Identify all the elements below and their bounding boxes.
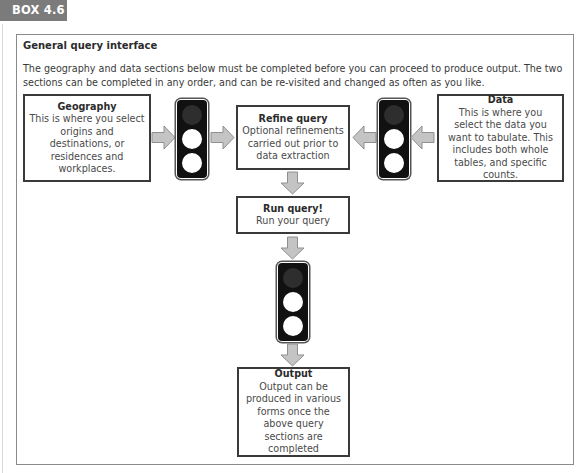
lamp-on-icon [283,316,303,336]
geography-node: Geography This is where you select origi… [23,94,151,182]
arrow-right-icon [151,125,176,150]
data-body: This is where you select the data you wa… [443,107,558,182]
run-body: Run your query [256,215,330,228]
data-title: Data [488,94,514,107]
geography-title: Geography [58,101,117,114]
arrow-down-icon [280,343,305,367]
box-label: BOX 4.6 [0,0,67,21]
lamp-on-icon [384,153,404,173]
lamp-off-icon [384,105,404,125]
output-node: Output Output can be produced in various… [237,367,350,457]
arrow-right-icon [210,125,235,150]
arrow-left-icon [352,125,377,150]
lamp-on-icon [182,153,202,173]
traffic-light-icon [177,100,207,178]
page-edge [2,24,3,473]
lamp-on-icon [182,129,202,149]
output-title: Output [275,368,313,381]
refine-title: Refine query [259,113,328,126]
lamp-off-icon [283,268,303,288]
panel-intro: The geography and data sections below mu… [23,62,563,90]
geography-body: This is where you select origins and des… [29,113,145,176]
run-title: Run query! [263,203,323,216]
output-body: Output can be produced in various forms … [243,381,344,456]
arrow-left-icon [410,125,435,150]
arrow-down-icon [280,236,305,260]
lamp-off-icon [182,105,202,125]
panel-title: General query interface [23,40,157,51]
refine-body: Optional refinements carried out prior t… [242,125,344,163]
run-query-node: Run query! Run your query [236,196,350,234]
data-node: Data This is where you select the data y… [437,94,564,182]
lamp-on-icon [283,292,303,312]
lamp-on-icon [384,129,404,149]
refine-query-node: Refine query Optional refinements carrie… [236,105,350,170]
arrow-down-icon [280,171,305,195]
traffic-light-icon [379,100,409,178]
traffic-light-icon [278,263,308,341]
